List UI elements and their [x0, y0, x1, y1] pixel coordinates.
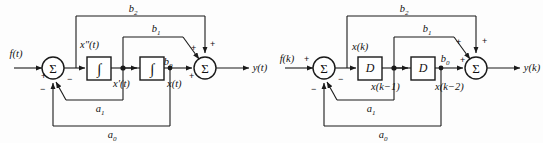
input-summer-symbol: Σ — [49, 61, 57, 76]
sign-b2-plus: + — [210, 39, 215, 49]
input-label: f(t) — [10, 48, 23, 60]
state-signal-k-1-label: x(k−1) — [370, 81, 400, 93]
output-summer-symbol: Σ — [472, 61, 480, 76]
continuous-time-block-diagram: Σ ∫ ∫ Σ f(t) y(t) x″(t) x′( — [0, 0, 271, 143]
sign-b1-plus: + — [191, 43, 196, 53]
sign-b0-plus: + — [460, 55, 465, 65]
discrete-time-block-diagram: Σ D D Σ f(k) y(k) x(k) x(k− — [271, 0, 543, 143]
output-label: y(k) — [523, 62, 541, 74]
state-signal-k-2-label: x(k−2) — [434, 81, 464, 93]
gain-b1-label: b1 — [423, 23, 432, 37]
state-signal-label: x(t) — [166, 78, 182, 90]
delay-1-label: D — [365, 61, 375, 75]
sign-b1-plus: + — [456, 37, 461, 47]
input-label: f(k) — [280, 53, 295, 65]
sign-a1-minus: − — [67, 74, 72, 84]
gain-b2-label: b2 — [129, 3, 138, 17]
gain-a0-label: a0 — [379, 129, 388, 143]
delay-2-label: D — [418, 61, 428, 75]
gain-b0-label: b0 — [441, 53, 450, 67]
output-summer-symbol: Σ — [201, 61, 209, 76]
first-derivative-signal-label: x′(t) — [112, 78, 130, 90]
gain-a1-label: a1 — [96, 103, 105, 117]
sign-a0-minus: − — [311, 84, 316, 94]
wire-a1-diag — [56, 82, 66, 100]
gain-a1-label: a1 — [367, 103, 376, 117]
second-derivative-signal-label: x″(t) — [79, 39, 99, 51]
sign-input-plus: + — [41, 71, 46, 81]
figure-canvas: Σ ∫ ∫ Σ f(t) y(t) x″(t) x′( — [0, 0, 543, 143]
gain-a0-label: a0 — [108, 129, 117, 143]
gain-b2-label: b2 — [400, 3, 409, 17]
wire-a1-diag — [327, 82, 337, 100]
sign-input-plus: + — [304, 54, 309, 64]
output-label: y(t) — [252, 62, 268, 74]
state-signal-k-label: x(k) — [351, 41, 369, 53]
sign-a1-minus: − — [338, 74, 343, 84]
sign-a0-minus: − — [40, 84, 45, 94]
gain-b1-label: b1 — [152, 23, 161, 37]
sign-b2-plus: + — [482, 36, 487, 46]
input-summer-symbol: Σ — [320, 61, 328, 76]
sign-b0-plus: + — [189, 71, 194, 81]
